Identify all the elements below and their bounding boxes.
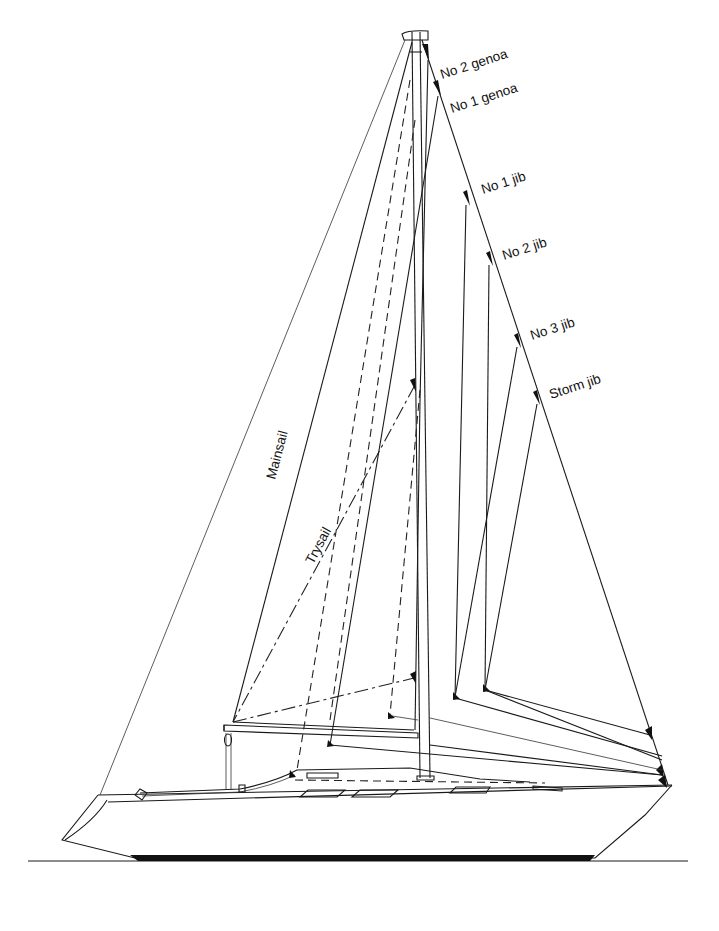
boot-stripe	[130, 855, 595, 861]
trysail	[233, 378, 416, 722]
backstay	[100, 40, 405, 795]
label-trysail: Trysail	[302, 525, 334, 567]
label-storm-jib: Storm jib	[547, 371, 602, 402]
sail-plan-drawing: No 2 genoa No 1 genoa No 1 jib No 2 jib …	[0, 0, 719, 931]
dashed-luff-2	[330, 120, 415, 720]
label-mainsail: Mainsail	[263, 429, 290, 481]
storm-jib	[485, 390, 652, 740]
mast	[402, 31, 434, 780]
tack-fitting	[656, 764, 664, 778]
label-no3-jib: No 3 jib	[528, 314, 576, 342]
no2-genoa	[415, 44, 662, 775]
label-no1-genoa: No 1 genoa	[448, 80, 519, 116]
label-no1-jib: No 1 jib	[479, 168, 527, 196]
hull	[62, 768, 672, 861]
mainsail	[233, 42, 414, 730]
label-no2-genoa: No 2 genoa	[438, 46, 509, 82]
label-no2-jib: No 2 jib	[500, 234, 548, 262]
